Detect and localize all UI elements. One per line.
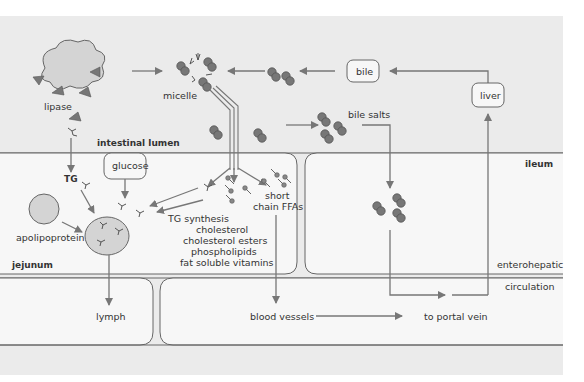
- blood-vessels-label: blood vessels: [250, 311, 314, 322]
- apolipoprotein-label: apolipoprotein: [16, 232, 85, 243]
- synthesis-tg: TG synthesis: [167, 213, 229, 224]
- jejunum-label: jejunum: [11, 260, 53, 270]
- blood-compartment: [160, 278, 563, 345]
- portal-vein-label: to portal vein: [424, 311, 488, 322]
- tg-label: TG: [64, 174, 78, 184]
- short-chain-ffas-label-1: short: [265, 190, 290, 201]
- enterohepatic-label: enterohepatic: [497, 259, 563, 270]
- fat-absorption-diagram: lipase micelle bile liver bile salts: [0, 0, 584, 382]
- chylomicron-icon: [85, 217, 129, 255]
- micelle-label: micelle: [163, 90, 197, 101]
- synthesis-vitamins: fat soluble vitamins: [180, 257, 274, 268]
- lipase-label: lipase: [44, 101, 72, 112]
- synthesis-cholesterol-esters: cholesterol esters: [183, 235, 267, 246]
- short-chain-ffas-label-2: chain FFAs: [253, 201, 303, 212]
- intestinal-lumen-label: intestinal lumen: [97, 138, 180, 148]
- apolipoprotein-icon: [29, 194, 59, 224]
- glucose-label: glucose: [112, 160, 149, 171]
- liver-label: liver: [480, 90, 501, 101]
- ileum-label: ileum: [525, 159, 553, 169]
- bile-label: bile: [356, 66, 373, 77]
- circulation-label: circulation: [505, 281, 554, 292]
- ileum-cell: [305, 153, 563, 274]
- synthesis-phospholipids: phospholipids: [191, 246, 257, 257]
- bile-salts-label: bile salts: [348, 109, 390, 120]
- lymph-compartment: [0, 278, 153, 345]
- lymph-label: lymph: [96, 311, 126, 322]
- synthesis-cholesterol: cholesterol: [196, 224, 248, 235]
